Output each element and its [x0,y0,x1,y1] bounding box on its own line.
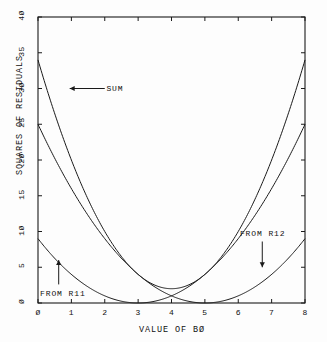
annotation-sum-label: SUM [106,84,123,93]
y-tick-label: 35 [17,42,26,60]
x-tick-label: Ø [31,308,45,317]
x-tick-label: 5 [198,308,212,317]
series-line-1 [38,124,305,303]
series-line-2 [38,60,305,289]
y-tick-label: Ø [17,293,26,311]
x-tick-label: 6 [231,308,245,317]
series-line-0 [38,124,305,303]
x-axis-title: VALUE OF BØ [38,325,306,335]
x-tick-label: 7 [265,308,279,317]
y-tick-label: 2Ø [17,150,26,168]
y-tick-label: 4Ø [17,7,26,25]
annotation-arrows [56,86,265,285]
y-tick-label: 25 [17,114,26,132]
annotation-r12-label: FROM R12 [240,229,286,238]
chart-figure: SQUARES OF RESIDUALS VALUE OF BØ Ø51Ø152… [0,0,327,342]
x-tick-label: 4 [165,308,179,317]
data-series-group [38,60,305,303]
x-tick-label: 8 [298,308,312,317]
y-tick-label: 15 [17,185,26,203]
axis-ticks [38,17,305,303]
annotation-r11-label: FROM R11 [40,289,86,298]
y-tick-label: 3Ø [17,78,26,96]
x-tick-label: 3 [131,308,145,317]
plot-frame [38,17,305,303]
x-tick-label: 1 [64,308,78,317]
y-tick-label: 5 [17,257,26,275]
y-tick-label: 1Ø [17,221,26,239]
x-tick-label: 2 [98,308,112,317]
